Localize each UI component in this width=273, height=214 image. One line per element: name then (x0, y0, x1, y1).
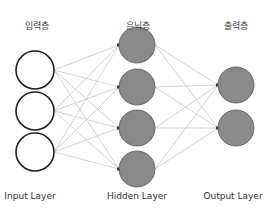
connection-edge (54, 45, 119, 70)
connection-edge (54, 45, 119, 111)
output-layer-korean-label: 출력층 (224, 19, 248, 32)
hidden-node (119, 69, 155, 105)
hidden-layer-label: Hidden Layer (107, 191, 167, 201)
neural-network-diagram: 입력층 은닉층 출력층 Input Layer Hidden Layer Out… (0, 0, 273, 214)
output-node (218, 67, 254, 103)
hidden-node (119, 151, 155, 187)
connection-edge (155, 128, 218, 169)
input-node (16, 92, 54, 130)
output-layer-label: Output Layer (203, 191, 262, 201)
hidden-layer-korean-label: 은닉층 (126, 19, 150, 32)
input-layer-label: Input Layer (4, 191, 55, 201)
connection-edge (54, 45, 119, 152)
hidden-node (119, 27, 155, 63)
input-node (16, 133, 54, 171)
input-node (16, 51, 54, 89)
connection-edge (54, 128, 119, 152)
input-layer-korean-label: 입력층 (25, 19, 49, 32)
network-graph (0, 0, 273, 214)
connection-edge (155, 85, 218, 169)
connection-edge (155, 45, 218, 85)
hidden-node (119, 110, 155, 146)
output-node (218, 110, 254, 146)
